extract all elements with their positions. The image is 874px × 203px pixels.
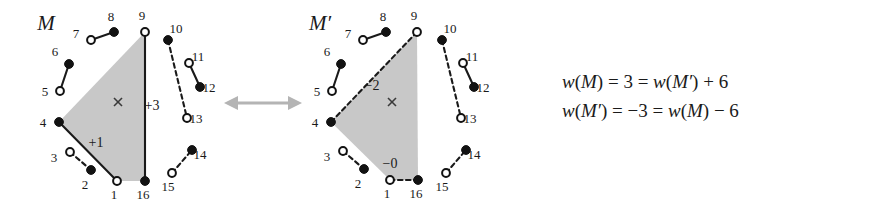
node-label-11: 11 [192, 49, 205, 64]
equation-line-2: w(M′) = −3 = w(M) − 6 [562, 100, 739, 122]
panel-title-panel-m: M [36, 11, 56, 35]
edge-weight-label-0: +1 [89, 135, 104, 150]
node-label-4: 4 [312, 115, 319, 130]
figure-canvas: 12345678910111213141516+1+3M123456789101… [0, 0, 874, 203]
node-7[interactable] [87, 36, 95, 44]
node-label-15: 15 [436, 179, 449, 194]
node-4[interactable] [55, 118, 64, 127]
panels-group: 12345678910111213141516+1+3M123456789101… [36, 8, 489, 202]
node-label-2: 2 [355, 176, 362, 191]
node-label-16: 16 [137, 187, 151, 202]
node-7[interactable] [359, 36, 367, 44]
node-label-1: 1 [384, 186, 391, 201]
node-1[interactable] [386, 176, 394, 184]
matching-swap-figure: 12345678910111213141516+1+3M123456789101… [0, 0, 874, 203]
node-label-10: 10 [444, 21, 457, 36]
node-label-2: 2 [82, 177, 89, 192]
node-6[interactable] [65, 60, 74, 69]
node-label-13: 13 [464, 111, 477, 126]
equations-group: w(M) = 3 = w(M′) + 6w(M′) = −3 = w(M) − … [562, 71, 739, 122]
node-label-3: 3 [324, 149, 331, 164]
edge-weight-label-0: −2 [365, 78, 380, 93]
node-label-1: 1 [111, 187, 118, 202]
node-5[interactable] [328, 87, 336, 95]
panel-m: 12345678910111213141516+1+3M [36, 8, 215, 202]
node-label-14: 14 [194, 147, 208, 162]
node-label-3: 3 [51, 150, 58, 165]
node-label-12: 12 [203, 80, 216, 95]
node-label-9: 9 [139, 8, 146, 23]
node-9[interactable] [141, 28, 149, 36]
shaded-region [331, 32, 418, 180]
swap-arrow-group [224, 96, 302, 110]
node-3[interactable] [339, 147, 347, 155]
edge-weight-label-1: +3 [145, 98, 160, 113]
node-label-15: 15 [162, 179, 175, 194]
node-label-16: 16 [410, 186, 424, 201]
node-label-14: 14 [468, 147, 482, 162]
node-15[interactable] [168, 169, 176, 177]
edge-10-13 [442, 40, 461, 118]
node-label-13: 13 [190, 111, 203, 126]
node-label-6: 6 [324, 44, 331, 59]
node-label-8: 8 [380, 9, 387, 24]
shaded-region [59, 32, 145, 181]
edge-10-13 [168, 40, 187, 118]
node-9[interactable] [413, 28, 421, 36]
swap-arrow-head-right [288, 96, 302, 110]
node-label-5: 5 [42, 84, 49, 99]
node-label-10: 10 [170, 21, 183, 36]
node-4[interactable] [327, 118, 336, 127]
node-label-7: 7 [73, 26, 80, 41]
node-8[interactable] [110, 28, 119, 37]
swap-arrow-head-left [224, 96, 238, 110]
edge-weight-label-1: −0 [383, 156, 398, 171]
node-8[interactable] [382, 28, 391, 37]
panel-title-panel-m-prime: M′ [308, 11, 331, 35]
node-16[interactable] [141, 177, 150, 186]
node-2[interactable] [87, 166, 96, 175]
node-3[interactable] [66, 148, 74, 156]
node-10[interactable] [438, 36, 447, 45]
node-label-6: 6 [52, 44, 59, 59]
node-16[interactable] [414, 176, 423, 185]
node-label-8: 8 [108, 9, 115, 24]
node-2[interactable] [360, 165, 369, 174]
node-5[interactable] [56, 87, 64, 95]
node-label-9: 9 [411, 8, 418, 23]
node-label-5: 5 [314, 84, 321, 99]
node-15[interactable] [442, 169, 450, 177]
node-label-4: 4 [40, 115, 47, 130]
equation-line-1: w(M) = 3 = w(M′) + 6 [562, 71, 728, 93]
node-6[interactable] [337, 60, 346, 69]
node-label-12: 12 [477, 80, 490, 95]
node-label-11: 11 [466, 49, 479, 64]
node-1[interactable] [113, 177, 121, 185]
panel-m-prime: 12345678910111213141516−2−0M′ [308, 8, 490, 201]
node-10[interactable] [164, 36, 173, 45]
node-label-7: 7 [345, 26, 352, 41]
